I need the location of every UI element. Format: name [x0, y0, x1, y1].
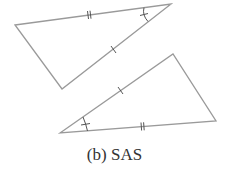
top-triangle [15, 4, 171, 89]
bottom-triangle-outline [60, 54, 216, 133]
bottom-triangle [60, 54, 216, 133]
top-triangle-outline [15, 4, 171, 89]
bottom-triangle-angle-mark [81, 117, 90, 131]
figure-caption: (b) SAS [0, 145, 225, 165]
top-triangle-angle-mark [140, 8, 148, 22]
bottom-triangle-single-tick-mark [118, 87, 123, 94]
